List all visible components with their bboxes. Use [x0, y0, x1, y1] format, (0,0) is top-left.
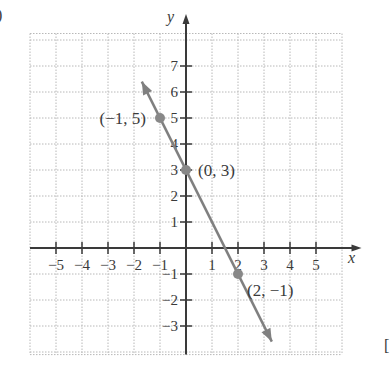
corner-bracket: [ [384, 337, 389, 354]
x-tick-label: −4 [74, 257, 90, 273]
y-axis-arrow-icon [183, 14, 190, 24]
axes [30, 14, 362, 355]
data-point [155, 113, 165, 123]
line-arrowhead-down-icon [262, 328, 272, 342]
line-arrowhead-up-icon [142, 82, 152, 96]
x-tick-label: 3 [260, 257, 268, 273]
data-point [181, 165, 191, 175]
point-label: (2, −1) [247, 281, 293, 300]
x-tick-label: −5 [48, 257, 64, 273]
x-tick-label: −3 [100, 257, 116, 273]
x-axis-label: x [347, 249, 355, 266]
figure-marker: ) [0, 6, 2, 24]
y-tick-label: −2 [162, 292, 178, 308]
x-tick-labels: −5−4−3−2−112345 [48, 257, 320, 273]
y-tick-labels: −3−2−11234567 [162, 58, 178, 334]
y-tick-label: −3 [162, 318, 178, 334]
x-tick-label: −2 [126, 257, 142, 273]
y-tick-label: 5 [171, 110, 179, 126]
data-point [233, 269, 243, 279]
coordinate-plane: −5−4−3−2−112345 −3−2−11234567 (−1, 5)(0,… [0, 0, 390, 390]
point-label: (−1, 5) [100, 109, 146, 128]
x-tick-label: 4 [286, 257, 294, 273]
y-tick-label: 1 [171, 214, 179, 230]
point-label: (0, 3) [198, 161, 235, 180]
y-tick-label: 6 [171, 84, 179, 100]
y-tick-label: −1 [162, 266, 178, 282]
x-tick-label: 5 [312, 257, 320, 273]
x-tick-label: 1 [208, 257, 216, 273]
y-tick-label: 7 [171, 58, 179, 74]
y-tick-label: 2 [171, 188, 179, 204]
y-axis-label: y [165, 8, 175, 26]
y-tick-label: 3 [171, 162, 179, 178]
